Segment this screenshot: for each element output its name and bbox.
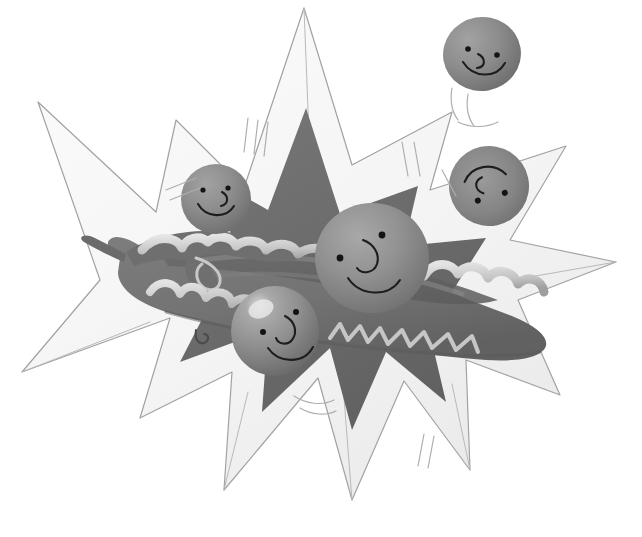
pea-eye-left [200,187,205,192]
pea-eye-right [494,52,500,58]
pea-body [315,203,429,313]
pea-top-left [181,164,251,234]
pea-body [181,164,251,234]
pea-eye-right [379,232,386,239]
pea-bottom [231,286,319,376]
pea-eye-left [465,46,471,52]
pea-eye-left [260,329,266,335]
pea-eye-right [293,309,299,315]
pea-body [231,286,319,376]
pea-eye-left [337,255,344,262]
illustration-canvas [0,0,642,537]
pea-pod-illustration [0,0,642,537]
pea-center [315,203,429,313]
pea-eye-right [225,185,230,190]
